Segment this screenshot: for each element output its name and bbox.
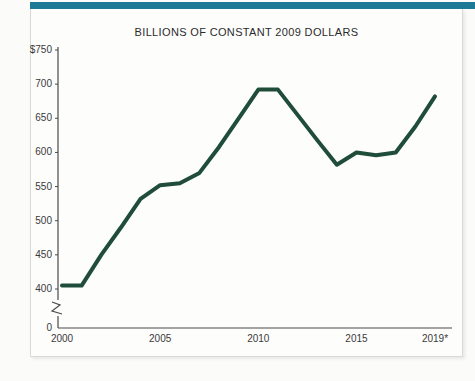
chart-plot-area: [0, 0, 475, 381]
y-axis-tick-label: 600: [10, 146, 52, 157]
y-axis-tick-label: 700: [10, 78, 52, 89]
y-axis-break-marker: [52, 302, 62, 314]
x-axis-tick-label: 2015: [326, 333, 386, 344]
chart-axes: [52, 47, 452, 328]
chart-screenshot: BILLIONS OF CONSTANT 2009 DOLLARS $75070…: [0, 0, 475, 381]
x-axis-tick-label: 2005: [130, 333, 190, 344]
y-axis-tick-label: 500: [10, 215, 52, 226]
y-axis-tick-label: 400: [10, 283, 52, 294]
y-axis-tick-label: 650: [10, 112, 52, 123]
x-axis-tick-label: 2010: [228, 333, 288, 344]
x-axis-tick-label: 2019*: [405, 333, 465, 344]
y-axis-tick-label: 550: [10, 181, 52, 192]
y-axis-tick-label: 0: [10, 322, 52, 333]
y-axis-tick-label: 450: [10, 249, 52, 260]
series-line-billions-constant-2009-dollars: [62, 90, 435, 286]
y-axis-tick-label: $750: [10, 44, 52, 55]
chart-series-line: [62, 90, 435, 286]
x-axis-tick-label: 2000: [32, 333, 92, 344]
